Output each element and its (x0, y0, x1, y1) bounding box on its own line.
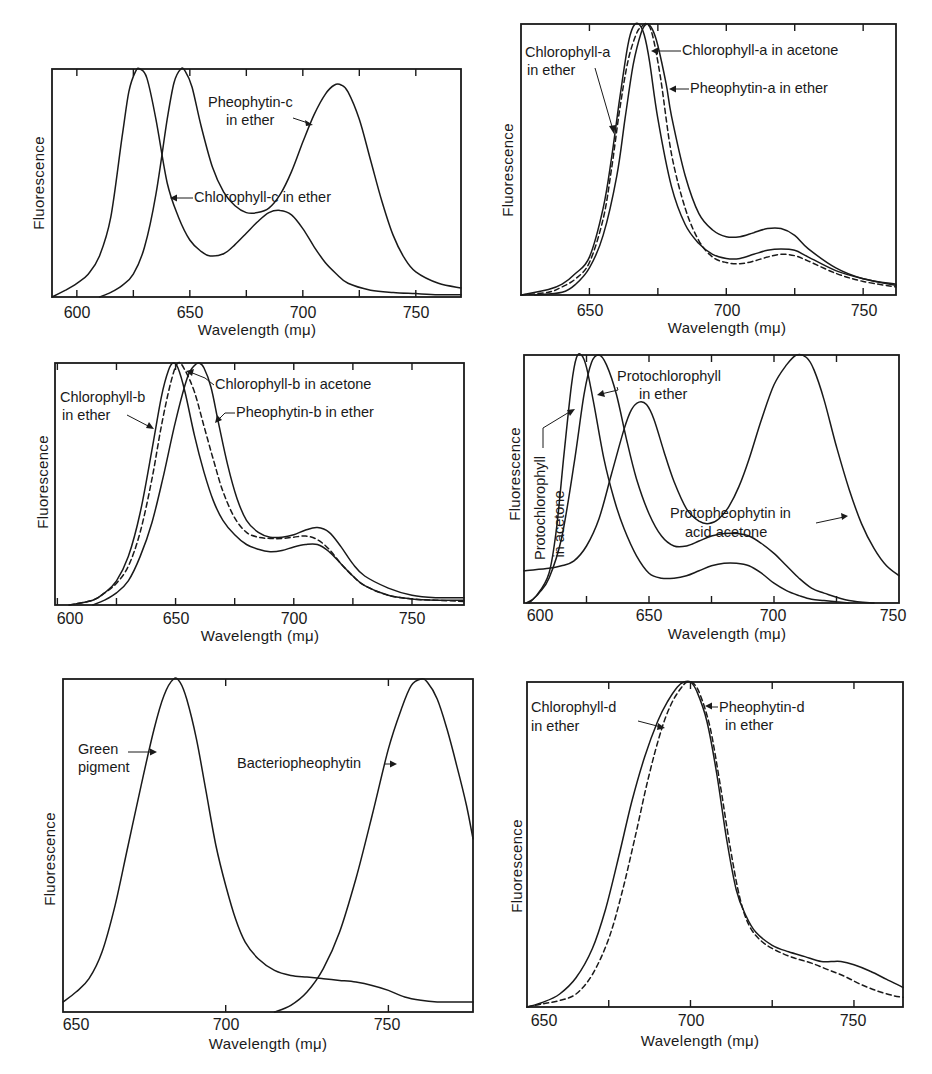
x-axis-label: Wavelength (mμ) (209, 1035, 327, 1052)
arrowhead-icon (597, 390, 605, 397)
panel-chlorophyll-c: 600 650 700 750 Wavelength (mμ) Fluoresc… (30, 68, 461, 338)
x-tick-label: 750 (403, 304, 430, 321)
spectrum-curve (527, 682, 903, 1007)
spectrum-curve (535, 24, 896, 295)
annotation-green-pigment: Green (78, 741, 118, 757)
spectrum-curve (93, 363, 464, 605)
x-tick-label: 750 (399, 610, 426, 627)
x-tick-label: 650 (163, 610, 190, 627)
annotation-arrow (127, 415, 150, 427)
plot-curves (521, 23, 896, 295)
x-axis-label: Wavelength (mμ) (201, 627, 319, 644)
x-axis-label: Wavelength (mμ) (198, 321, 316, 338)
spectrum-curve (521, 24, 896, 295)
arrowhead-icon (657, 723, 665, 730)
annotation-protochlorophyll-ether: Protochlorophyll (617, 368, 721, 384)
annotation-pheophytin-d-solvent: in ether (725, 717, 774, 733)
annotation-chlorophyll-b-ether: Chlorophyll-b (60, 389, 145, 405)
annotation-protopheophytin-solvent: acid acetone (685, 524, 767, 540)
annotation-protopheophytin: Protopheophytin in (670, 505, 791, 521)
x-tick-label: 600 (57, 610, 84, 627)
y-axis-label: Fluorescence (34, 435, 51, 529)
spectrum-curve (524, 355, 899, 576)
y-axis-label: Fluorescence (499, 123, 516, 217)
y-axis-label: Fluorescence (41, 812, 58, 906)
x-tick-label: 650 (636, 607, 663, 624)
annotation-pheophytin-c-solvent: in ether (226, 112, 275, 128)
y-axis-label: Fluorescence (30, 136, 47, 230)
y-axis-label: Fluorescence (506, 427, 523, 521)
annotation-pheophytin-c: Pheophytin-c (208, 94, 293, 110)
arrowhead-icon (841, 513, 848, 520)
panel-chlorophyll-a: 650 700 750 Wavelength (mμ) Fluorescence… (499, 23, 896, 336)
annotation-protochlorophyll-ether-solvent: in ether (639, 386, 688, 402)
x-tick-label: 650 (531, 1012, 558, 1029)
x-tick-label: 700 (760, 607, 787, 624)
x-tick-label: 700 (290, 304, 317, 321)
spectrum-curve (63, 678, 473, 1002)
y-axis-label: Fluorescence (508, 819, 525, 913)
arrowhead-icon (669, 86, 676, 93)
arrowhead-icon (390, 761, 397, 768)
x-tick-label: 600 (64, 304, 91, 321)
annotation-pheophytin-d: Pheophytin-d (719, 699, 804, 715)
plot-curves (63, 678, 473, 1012)
x-tick-label: 650 (63, 1016, 90, 1033)
spectrum-curve (527, 681, 903, 1007)
x-tick-label: 700 (678, 1012, 705, 1029)
x-ticks (589, 24, 863, 295)
spectrum-curve (527, 354, 850, 603)
x-axis-label: Wavelength (mμ) (668, 319, 786, 336)
x-tick-label: 750 (880, 607, 907, 624)
annotation-bacteriopheophytin: Bacteriopheophytin (237, 755, 361, 771)
x-tick-label: 750 (851, 302, 878, 319)
annotation-green-pigment-line2: pigment (78, 759, 130, 775)
x-axis-label: Wavelength (mμ) (668, 625, 786, 642)
annotation-arrow (816, 517, 844, 523)
annotation-arrow (595, 68, 613, 130)
arrowhead-icon (651, 48, 658, 55)
annotation-chlorophyll-b-acetone: Chlorophyll-b in acetone (215, 376, 371, 392)
panel-bacteriopheophytin: 650 700 750 Wavelength (mμ) Fluorescence… (41, 678, 473, 1052)
arrowhead-icon (705, 703, 712, 710)
plot-frame (63, 679, 473, 1012)
arrowhead-icon (150, 749, 157, 756)
x-tick-label: 700 (714, 302, 741, 319)
plot-frame (527, 682, 903, 1007)
x-tick-label: 700 (213, 1016, 240, 1033)
plot-curves (524, 354, 899, 603)
x-axis-label: Wavelength (mμ) (641, 1032, 759, 1049)
x-tick-label: 750 (840, 1012, 867, 1029)
spectrum-curve (275, 679, 474, 1012)
x-tick-label: 700 (281, 610, 308, 627)
x-tick-label: 600 (527, 607, 554, 624)
annotation-pheophytin-a: Pheophytin-a in ether (690, 80, 828, 96)
fluorescence-spectra-figure: 600 650 700 750 Wavelength (mμ) Fluoresc… (0, 0, 932, 1074)
annotation-chlorophyll-b-ether-solvent: in ether (62, 407, 111, 423)
annotation-chlorophyll-d: Chlorophyll-d (531, 699, 616, 715)
x-tick-label: 650 (177, 304, 204, 321)
annotation-chlorophyll-a-ether-solvent: in ether (527, 62, 576, 78)
plot-curves (527, 681, 903, 1007)
annotation-chlorophyll-a-acetone: Chlorophyll-a in acetone (682, 42, 838, 58)
panel-chlorophyll-d: 650 700 750 Wavelength (mμ) Fluorescence… (508, 681, 903, 1049)
annotation-protochlorophyll-acetone-solvent: in acetone (551, 491, 567, 558)
annotation-chlorophyll-d-solvent: in ether (531, 718, 580, 734)
x-tick-label: 650 (577, 302, 604, 319)
panel-protochlorophyll: 600 650 700 750 Wavelength (mμ) Fluoresc… (506, 354, 906, 642)
annotation-pheophytin-b: Pheophytin-b in ether (236, 404, 374, 420)
annotation-chlorophyll-a-ether: Chlorophyll-a (525, 44, 611, 60)
panel-chlorophyll-b: 600 650 700 750 Wavelength (mμ) Fluoresc… (34, 363, 464, 644)
annotation-protochlorophyll-acetone: Protochlorophyll (532, 456, 548, 560)
x-tick-label: 750 (374, 1016, 401, 1033)
annotation-chlorophyll-c: Chlorophyll-c in ether (194, 189, 331, 205)
